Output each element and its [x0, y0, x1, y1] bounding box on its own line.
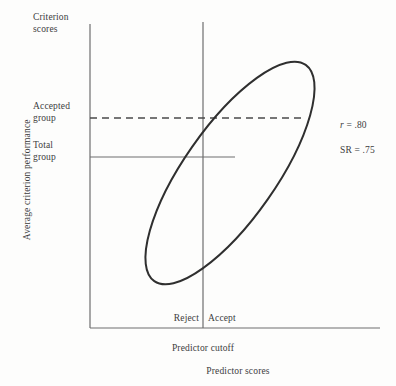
scatter-envelope-ellipse — [117, 38, 344, 307]
selection-ratio-value: = .75 — [352, 145, 375, 155]
y-axis-title: Average criterion performance — [22, 90, 34, 270]
accept-region-label: Accept — [208, 313, 250, 325]
statistics-annotation: r = .80 SR = .75 — [340, 106, 396, 169]
reject-region-label: Reject — [161, 313, 199, 325]
correlation-annotation: r = .80 — [340, 119, 396, 132]
selection-ratio-annotation: SR = .75 — [340, 144, 396, 157]
selection-ratio-symbol: SR — [340, 145, 352, 155]
predictor-cutoff-caption: Predictor cutoff — [143, 343, 263, 355]
accepted-group-label: Accepted group — [33, 101, 93, 124]
criterion-scores-axis-caption: Criterion scores — [33, 12, 93, 35]
correlation-value: = .80 — [344, 120, 367, 130]
predictor-criterion-figure: Criterion scores Accepted group Total gr… — [0, 0, 396, 386]
x-axis-title: Predictor scores — [178, 366, 298, 378]
total-group-label: Total group — [33, 140, 93, 163]
plot-canvas — [0, 0, 396, 386]
